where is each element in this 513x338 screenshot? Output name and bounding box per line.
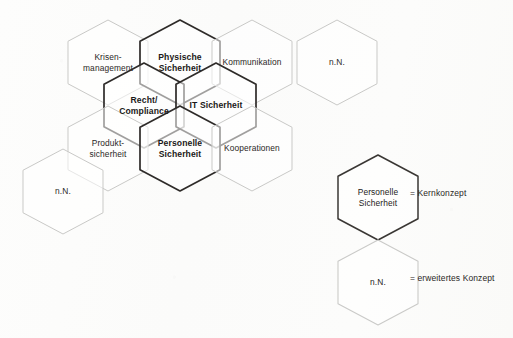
hexagon-kooperationen[interactable]: Kooperationen bbox=[212, 106, 292, 191]
hexagon-label: Physische Sicherheit bbox=[152, 52, 207, 73]
legend-label-legend-kernkonzept: = Kernkonzept bbox=[410, 188, 466, 198]
hexagon-label: n.N. bbox=[49, 186, 77, 196]
hexagon-personelle-sicherheit[interactable]: Personelle Sicherheit bbox=[140, 106, 220, 191]
hexagon-label: Produkt- sicherheit bbox=[84, 138, 133, 159]
legend-hexagon-legend-erweitertes-konzept[interactable]: n.N. bbox=[338, 240, 418, 325]
hexagon-label: Recht/ Compliance bbox=[113, 95, 175, 116]
legend-hexagon-legend-kernkonzept[interactable]: Personelle Sicherheit bbox=[338, 155, 418, 240]
hexagon-label: IT Sicherheit bbox=[184, 100, 249, 110]
hexagon-nn-bottom-left[interactable]: n.N. bbox=[23, 149, 103, 234]
hexagon-label: Krisen- management bbox=[77, 52, 139, 73]
hexagon-label: n.N. bbox=[323, 57, 351, 67]
legend-label-legend-erweitertes-konzept: = erweitertes Konzept bbox=[410, 273, 495, 283]
hexagon-label: Kooperationen bbox=[218, 143, 286, 153]
hexagon-nn-top-right[interactable]: n.N. bbox=[297, 20, 377, 105]
hexagon-label: Personelle Sicherheit bbox=[352, 187, 405, 208]
hexagon-label: Personelle Sicherheit bbox=[152, 138, 208, 159]
hexagon-label: Kommunikation bbox=[216, 57, 287, 67]
hexagon-label: n.N. bbox=[364, 277, 392, 287]
